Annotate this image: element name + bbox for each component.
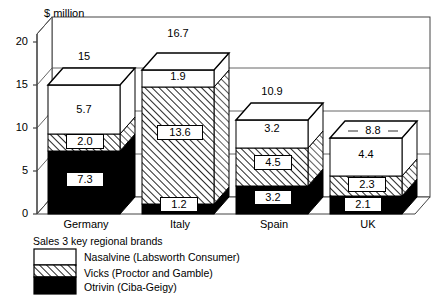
total-label-spain: 10.9 xyxy=(246,86,298,97)
y-tick-10: 10 xyxy=(10,122,28,133)
segment-label-uk-nasalvine: 4.4 xyxy=(340,148,392,160)
segment-label-italy-nasalvine: 1.9 xyxy=(152,70,204,82)
segment-label-uk-vicks: 2.3 xyxy=(348,177,386,192)
segment-label-germany-nasalvine: 5.7 xyxy=(58,103,110,115)
segment-label-germany-otrivin: 7.3 xyxy=(66,172,104,187)
total-label-germany: 15 xyxy=(58,51,110,62)
total-label-uk: 8.8 xyxy=(347,125,399,136)
category-label-italy: Italy xyxy=(144,219,216,230)
category-label-spain: Spain xyxy=(238,219,310,230)
legend-item-otrivin[interactable]: Otrivin (Ciba-Geigy) xyxy=(84,282,177,293)
total-label-italy: 16.7 xyxy=(152,28,204,39)
category-label-germany: Germany xyxy=(50,219,122,230)
segment-label-italy-otrivin: 1.2 xyxy=(160,197,198,212)
y-tick-0: 0 xyxy=(10,208,28,219)
segment-label-italy-vicks: 13.6 xyxy=(157,125,203,140)
segment-label-germany-vicks: 2.0 xyxy=(66,134,104,149)
segment-label-spain-otrivin: 3.2 xyxy=(254,190,292,205)
y-axis-unit-label: $ million xyxy=(44,8,84,19)
legend-title: Sales 3 key regional brands xyxy=(33,236,163,247)
segment-label-spain-nasalvine: 3.2 xyxy=(246,122,298,134)
y-tick-5: 5 xyxy=(10,165,28,176)
legend-item-vicks[interactable]: Vicks (Proctor and Gamble) xyxy=(84,268,213,279)
legend-item-nasalvine[interactable]: Nasalvine (Labsworth Consumer) xyxy=(84,252,240,263)
category-label-uk: UK xyxy=(332,219,404,230)
y-tick-15: 15 xyxy=(10,79,28,90)
chart-container: $ million 20 15 10 5 0 15 16.7 10.9 8.8 … xyxy=(0,0,440,306)
segment-label-uk-otrivin: 2.1 xyxy=(344,197,382,212)
legend-swatches xyxy=(34,249,76,294)
segment-label-spain-vicks: 4.5 xyxy=(254,155,292,170)
y-tick-20: 20 xyxy=(10,36,28,47)
